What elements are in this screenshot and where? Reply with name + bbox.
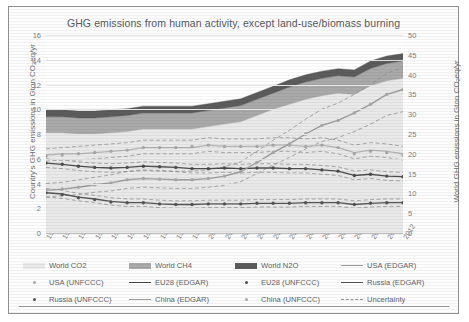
marker-china-unfccc bbox=[288, 142, 291, 145]
marker-usa-unfccc bbox=[239, 145, 242, 148]
marker-russia-unfccc bbox=[142, 201, 145, 204]
legend-item[interactable]: USA (EDGAR) bbox=[341, 261, 447, 270]
marker-russia-unfccc bbox=[385, 201, 388, 204]
y-tick-label-right: 10 bbox=[408, 189, 430, 198]
legend-item[interactable]: World CO2 bbox=[23, 261, 129, 270]
legend-label: World N2O bbox=[261, 261, 298, 270]
marker-russia-unfccc bbox=[207, 202, 210, 205]
marker-usa-unfccc bbox=[320, 143, 323, 146]
marker-russia-unfccc bbox=[190, 203, 193, 206]
marker-usa-unfccc bbox=[255, 145, 258, 148]
marker-eu28-unfccc bbox=[304, 167, 307, 170]
marker-china-unfccc bbox=[336, 119, 339, 122]
legend-item[interactable]: Russia (UNFCCC) bbox=[23, 295, 129, 304]
marker-china-unfccc bbox=[158, 177, 161, 180]
plot-canvas bbox=[46, 35, 403, 233]
marker-usa-unfccc bbox=[385, 151, 388, 154]
legend-label: USA (EDGAR) bbox=[367, 261, 416, 270]
marker-eu28-unfccc bbox=[223, 166, 226, 169]
chart-figure: GHG emissions from human activity, excep… bbox=[8, 6, 459, 314]
marker-usa-unfccc bbox=[174, 146, 177, 149]
marker-eu28-unfccc bbox=[125, 166, 128, 169]
legend-item[interactable]: China (UNFCCC) bbox=[235, 295, 341, 304]
legend-item[interactable]: World CH4 bbox=[129, 261, 235, 270]
legend-swatch-line-icon bbox=[341, 265, 363, 266]
legend-item[interactable]: EU28 (UNFCCC) bbox=[235, 278, 341, 287]
grid-line bbox=[46, 60, 403, 61]
marker-russia-unfccc bbox=[353, 203, 356, 206]
marker-eu28-unfccc bbox=[77, 164, 80, 167]
legend-label: Russia (UNFCCC) bbox=[49, 295, 111, 304]
marker-eu28-unfccc bbox=[353, 174, 356, 177]
marker-russia-unfccc bbox=[336, 201, 339, 204]
y-tick-label-right: 30 bbox=[408, 110, 430, 119]
marker-china-unfccc bbox=[125, 178, 128, 181]
marker-russia-unfccc bbox=[61, 193, 64, 196]
marker-eu28-unfccc bbox=[320, 168, 323, 171]
marker-china-unfccc bbox=[61, 187, 64, 190]
marker-china-unfccc bbox=[255, 161, 258, 164]
y-tick-label-right: 40 bbox=[408, 70, 430, 79]
marker-usa-unfccc bbox=[125, 148, 128, 151]
marker-russia-unfccc bbox=[77, 196, 80, 199]
marker-russia-unfccc bbox=[93, 198, 96, 201]
marker-usa-unfccc bbox=[207, 143, 210, 146]
y-tick-label-left: 0 bbox=[17, 229, 41, 238]
marker-usa-unfccc bbox=[142, 146, 145, 149]
legend-swatch-dot-icon bbox=[235, 281, 257, 284]
marker-eu28-unfccc bbox=[174, 166, 177, 169]
legend-item[interactable]: USA (UNFCCC) bbox=[23, 278, 129, 287]
grid-line bbox=[46, 184, 403, 185]
legend-label: China (UNFCCC) bbox=[261, 295, 320, 304]
marker-russia-unfccc bbox=[304, 201, 307, 204]
marker-usa-unfccc bbox=[271, 143, 274, 146]
y-tick-label-right: 45 bbox=[408, 50, 430, 59]
marker-eu28-unfccc bbox=[288, 167, 291, 170]
legend-label: Uncertainty bbox=[367, 295, 405, 304]
legend-swatch-dot-icon bbox=[235, 298, 257, 301]
marker-usa-unfccc bbox=[369, 150, 372, 153]
marker-russia-unfccc bbox=[223, 202, 226, 205]
y-tick-label-left: 6 bbox=[17, 154, 41, 163]
legend-swatch-area-icon bbox=[23, 263, 45, 269]
legend-item[interactable]: EU28 (EDGAR) bbox=[129, 278, 235, 287]
legend-label: USA (UNFCCC) bbox=[49, 278, 103, 287]
legend-item[interactable]: World N2O bbox=[235, 261, 341, 270]
legend-swatch-line-icon bbox=[129, 299, 151, 300]
y-tick-label-left: 16 bbox=[17, 31, 41, 40]
y-tick-label-left: 10 bbox=[17, 105, 41, 114]
marker-china-unfccc bbox=[223, 174, 226, 177]
marker-china-unfccc bbox=[239, 170, 242, 173]
marker-china-unfccc bbox=[320, 124, 323, 127]
grid-line bbox=[46, 35, 403, 36]
marker-china-unfccc bbox=[207, 177, 210, 180]
marker-china-unfccc bbox=[353, 111, 356, 114]
legend-swatch-dashed-icon bbox=[341, 299, 363, 300]
marker-china-unfccc bbox=[174, 178, 177, 181]
marker-eu28-unfccc bbox=[369, 173, 372, 176]
grid-line bbox=[46, 109, 403, 110]
marker-eu28-unfccc bbox=[190, 167, 193, 170]
marker-china-unfccc bbox=[369, 103, 372, 106]
marker-usa-unfccc bbox=[336, 146, 339, 149]
y-tick-label-right: 50 bbox=[408, 31, 430, 40]
marker-russia-unfccc bbox=[158, 202, 161, 205]
marker-russia-unfccc bbox=[109, 200, 112, 203]
legend-item[interactable]: Russia (EDGAR) bbox=[341, 278, 447, 287]
legend-swatch-dot-icon bbox=[23, 298, 45, 301]
grid-line bbox=[46, 134, 403, 135]
y-tick-label-right: 15 bbox=[408, 169, 430, 178]
marker-china-unfccc bbox=[271, 151, 274, 154]
y-tick-label-right: 25 bbox=[408, 130, 430, 139]
legend-item[interactable]: China (EDGAR) bbox=[129, 295, 235, 304]
grid-line bbox=[46, 85, 403, 86]
marker-china-unfccc bbox=[77, 186, 80, 189]
legend-swatch-dot-icon bbox=[23, 281, 45, 284]
legend-swatch-area-icon bbox=[129, 263, 151, 269]
marker-russia-unfccc bbox=[288, 202, 291, 205]
marker-usa-unfccc bbox=[77, 152, 80, 155]
marker-usa-unfccc bbox=[61, 153, 64, 156]
y-tick-label-left: 8 bbox=[17, 130, 41, 139]
legend-item[interactable]: Uncertainty bbox=[341, 295, 447, 304]
marker-eu28-unfccc bbox=[255, 166, 258, 169]
